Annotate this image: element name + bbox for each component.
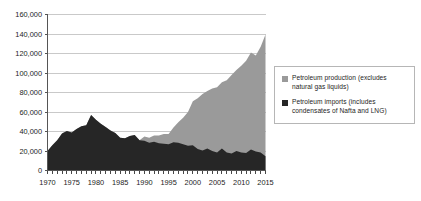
svg-text:2000: 2000 [185, 178, 201, 187]
svg-text:1970: 1970 [39, 178, 55, 187]
svg-text:140,000: 140,000 [15, 30, 42, 39]
legend-item-imports: Petroleum imports (includes condensates … [282, 98, 409, 115]
svg-text:1995: 1995 [160, 178, 176, 187]
svg-text:2010: 2010 [233, 178, 249, 187]
legend-swatch-production-icon [282, 76, 288, 82]
svg-text:1975: 1975 [63, 178, 79, 187]
legend-label-imports-line1: Petroleum imports (includes [292, 98, 376, 105]
svg-text:1985: 1985 [112, 178, 128, 187]
svg-text:80,000: 80,000 [19, 88, 42, 97]
svg-text:1980: 1980 [88, 178, 104, 187]
svg-text:120,000: 120,000 [15, 49, 42, 58]
legend-label-production-line1: Petroleum production (excludes [292, 74, 387, 81]
area-series-group [48, 34, 266, 170]
x-axis-tick-labels: 1970197519801985199019952000200520102015 [39, 178, 273, 187]
svg-text:160,000: 160,000 [15, 10, 42, 19]
legend-label-imports-line2: condensates of Nafta and LNG) [292, 107, 387, 114]
svg-text:20,000: 20,000 [19, 147, 42, 156]
svg-text:1990: 1990 [136, 178, 152, 187]
svg-text:2015: 2015 [257, 178, 273, 187]
legend-label-production: Petroleum production (excludes natural g… [292, 74, 387, 91]
legend-label-imports: Petroleum imports (includes condensates … [292, 98, 387, 115]
svg-text:40,000: 40,000 [19, 127, 42, 136]
svg-text:60,000: 60,000 [19, 108, 42, 117]
chart-figure: 020,00040,00060,00080,000100,000120,0001… [0, 0, 421, 201]
legend-label-production-line2: natural gas liquids) [292, 83, 349, 90]
y-axis-tick-labels: 020,00040,00060,00080,000100,000120,0001… [15, 10, 42, 175]
legend-swatch-imports-icon [282, 100, 288, 106]
legend-item-production: Petroleum production (excludes natural g… [282, 74, 409, 91]
svg-text:0: 0 [38, 166, 42, 175]
svg-text:2005: 2005 [209, 178, 225, 187]
svg-text:100,000: 100,000 [15, 69, 42, 78]
chart-legend: Petroleum production (excludes natural g… [274, 66, 415, 124]
